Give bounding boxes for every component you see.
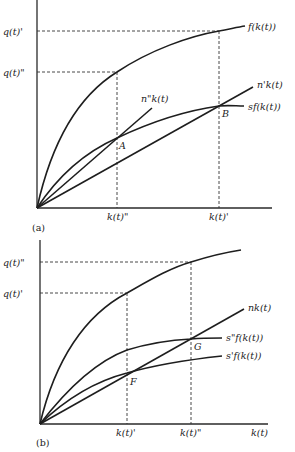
panel-b-q-dprime-label: q(t)"	[3, 257, 25, 268]
point-F-label: F	[129, 376, 137, 387]
panel-a-f-label: f(k(t))	[247, 21, 276, 32]
panel-b-s-dprime-f-label: s"f(k(t))	[226, 332, 263, 343]
panel-b-tag: (b)	[36, 437, 50, 448]
panel-b-s-prime-f-curve	[40, 356, 222, 424]
panel-a-n-prime-line	[37, 87, 253, 208]
panel-a-sf-label: sf(k(t))	[248, 101, 281, 112]
panel-b-nk-line	[40, 309, 244, 424]
panel-b-k-label: k(t)	[251, 427, 268, 438]
panel-b-q-prime-label: q(t)'	[3, 288, 23, 299]
panel-a-tag: (a)	[32, 222, 45, 233]
panel-a-q-dprime-label: q(t)"	[3, 67, 25, 78]
panel-a-n-prime-label: n'k(t)	[257, 79, 283, 90]
panel-b: q(t)" q(t)' k(t)' k(t)" k(t) nk(t) s"f(k…	[3, 240, 271, 448]
panel-b-nk-label: nk(t)	[248, 302, 271, 313]
panel-b-k-dprime-label: k(t)"	[180, 427, 201, 438]
panel-a-k-dprime-label: k(t)"	[107, 211, 128, 222]
solow-growth-diagram: q(t)' q(t)" k(t)" k(t)' f(k(t)) n'k(t) n…	[0, 0, 295, 452]
point-B-label: B	[221, 108, 229, 119]
panel-b-f-curve	[40, 250, 241, 424]
panel-a-sf-curve	[37, 106, 244, 208]
panel-a-k-prime-label: k(t)'	[209, 211, 229, 222]
point-G-label: G	[194, 341, 202, 352]
panel-b-s-prime-f-label: s'f(k(t))	[226, 350, 262, 361]
panel-b-k-prime-label: k(t)'	[116, 427, 136, 438]
panel-a-n-dprime-label: n"k(t)	[141, 93, 169, 104]
panel-a: q(t)' q(t)" k(t)" k(t)' f(k(t)) n'k(t) n…	[3, 0, 283, 233]
panel-a-q-prime-label: q(t)'	[3, 26, 23, 37]
point-A-label: A	[118, 140, 126, 151]
panel-a-n-dprime-line	[37, 108, 152, 208]
